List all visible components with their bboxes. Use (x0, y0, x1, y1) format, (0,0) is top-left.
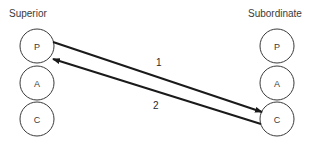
subordinate-child-state: C (260, 102, 294, 136)
transaction-2-arrow (53, 59, 261, 124)
superior-parent-letter: P (34, 42, 40, 52)
superior-adult-state: A (20, 66, 54, 100)
subordinate-parent-letter: P (274, 42, 280, 52)
subordinate-parent-state: P (260, 29, 294, 63)
subordinate-child-letter: C (274, 115, 281, 125)
transaction-diagram: P A C P A C 1 2 (0, 0, 316, 150)
superior-parent-state: P (20, 29, 54, 63)
superior-child-letter: C (34, 115, 41, 125)
subordinate-adult-letter: A (274, 79, 280, 89)
subordinate-adult-state: A (260, 66, 294, 100)
transaction-1-number: 1 (156, 57, 162, 68)
transaction-2-number: 2 (153, 100, 159, 111)
superior-child-state: C (20, 102, 54, 136)
superior-adult-letter: A (34, 79, 40, 89)
